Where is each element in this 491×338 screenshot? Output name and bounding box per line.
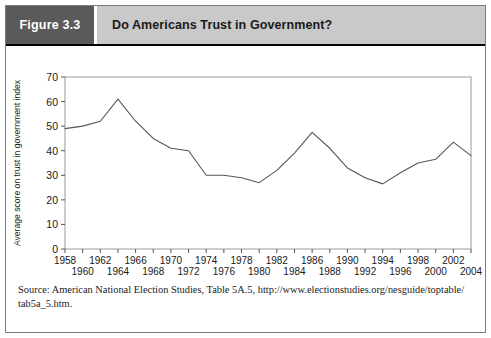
y-tick-label-50: 50 bbox=[46, 120, 58, 132]
x-tick-label-1986: 1986 bbox=[301, 255, 324, 266]
page-title: Do Americans Trust in Government? bbox=[112, 18, 332, 32]
figure-title-box: Do Americans Trust in Government? bbox=[94, 6, 485, 44]
figure-number-badge: Figure 3.3 bbox=[6, 6, 94, 44]
source-line-1: Source: American National Election Studi… bbox=[18, 283, 470, 297]
x-tick-label-2000: 2000 bbox=[425, 266, 448, 277]
source-note: Source: American National Election Studi… bbox=[18, 283, 470, 310]
x-tick-label-1996: 1996 bbox=[389, 266, 412, 277]
x-tick-label-1982: 1982 bbox=[266, 255, 289, 266]
x-tick-label-1978: 1978 bbox=[230, 255, 253, 266]
trust-in-government-line-chart: 010203040506070Average score on trust in… bbox=[6, 48, 485, 280]
x-tick-label-1992: 1992 bbox=[354, 266, 377, 277]
x-tick-label-1966: 1966 bbox=[124, 255, 147, 266]
y-tick-label-60: 60 bbox=[46, 96, 58, 108]
x-tick-label-1972: 1972 bbox=[177, 266, 200, 277]
x-tick-label-1970: 1970 bbox=[160, 255, 183, 266]
figure-page: Figure 3.3 Do Americans Trust in Governm… bbox=[0, 0, 491, 338]
y-tick-label-30: 30 bbox=[46, 169, 58, 181]
y-axis-title: Average score on trust in government ind… bbox=[12, 79, 22, 246]
x-tick-label-1988: 1988 bbox=[319, 266, 342, 277]
x-tick-label-1960: 1960 bbox=[72, 266, 95, 277]
y-tick-label-70: 70 bbox=[46, 71, 58, 83]
x-tick-label-1980: 1980 bbox=[248, 266, 271, 277]
y-tick-label-20: 20 bbox=[46, 194, 58, 206]
x-tick-label-2002: 2002 bbox=[442, 255, 465, 266]
chart-container: 010203040506070Average score on trust in… bbox=[6, 48, 485, 280]
figure-header: Figure 3.3 Do Americans Trust in Governm… bbox=[6, 6, 485, 44]
x-tick-label-1964: 1964 bbox=[107, 266, 130, 277]
y-tick-label-40: 40 bbox=[46, 145, 58, 157]
x-tick-label-1990: 1990 bbox=[336, 255, 359, 266]
x-tick-label-1968: 1968 bbox=[142, 266, 165, 277]
plot-frame bbox=[65, 77, 471, 249]
y-tick-label-0: 0 bbox=[52, 243, 58, 255]
x-tick-label-1984: 1984 bbox=[283, 266, 306, 277]
x-tick-label-1974: 1974 bbox=[195, 255, 218, 266]
header-divider bbox=[6, 44, 485, 46]
x-tick-label-2004: 2004 bbox=[460, 266, 483, 277]
x-tick-label-1994: 1994 bbox=[372, 255, 395, 266]
source-line-2: tab5a_5.htm. bbox=[18, 297, 470, 311]
y-tick-label-10: 10 bbox=[46, 218, 58, 230]
x-tick-label-1976: 1976 bbox=[213, 266, 236, 277]
x-tick-label-1962: 1962 bbox=[89, 255, 112, 266]
figure-number-label: Figure 3.3 bbox=[19, 18, 80, 32]
x-tick-label-1998: 1998 bbox=[407, 255, 430, 266]
x-tick-label-1958: 1958 bbox=[54, 255, 77, 266]
